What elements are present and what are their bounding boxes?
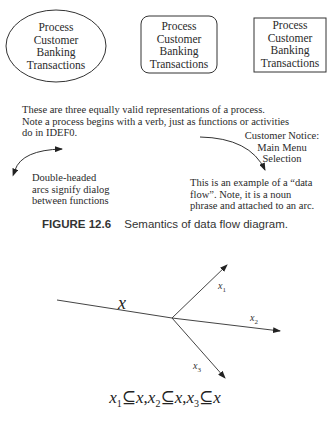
text-line: These are three equally valid representa… [22, 104, 322, 116]
set: x [213, 388, 221, 407]
text-line: flow”. Note, it is a noun [190, 189, 330, 201]
output-label-x1: x1 [218, 280, 226, 294]
label-line: Customer [254, 32, 326, 45]
text-line: Note a process begins with a verb, just … [22, 116, 322, 128]
input-flow-line [57, 300, 172, 318]
subscript: 2 [254, 318, 258, 326]
subset-operator: ⊆ [122, 388, 136, 407]
process-rounded-rect-label: Process Customer Banking Transactions [141, 20, 217, 70]
text-line: Main Menu [238, 142, 326, 154]
subscript: 1 [222, 286, 226, 294]
label-line: Banking [141, 45, 217, 58]
output-label-x3: x3 [193, 360, 201, 374]
figure-caption: FIGURE 12.6 Semantics of data flow diagr… [0, 218, 330, 230]
output-flow-x2 [172, 318, 280, 331]
var: x [109, 388, 117, 407]
text-line: arcs signify dialog [32, 184, 142, 196]
dialog-note: Double-headed arcs signify dialog betwee… [32, 172, 142, 207]
figure-caption-text: Semantics of data flow diagram. [124, 218, 288, 230]
output-label-x2: x2 [250, 312, 258, 326]
subset-operator: ⊆ [160, 388, 174, 407]
text-line: Double-headed [32, 172, 142, 184]
double-headed-arc [15, 149, 62, 170]
var: x [186, 388, 194, 407]
data-flow-label: Customer Notice: Main Menu Selection [238, 130, 326, 165]
subset-operator: ⊆ [199, 388, 213, 407]
label-line: Process [254, 19, 326, 32]
data-flow-note: This is an example of a “data flow”. Not… [190, 177, 330, 212]
set: x [136, 388, 144, 407]
label-line: Transactions [16, 59, 96, 72]
process-ellipse-label: Process Customer Banking Transactions [16, 21, 96, 71]
text-line: This is an example of a “data [190, 177, 330, 189]
label-line: Customer [141, 33, 217, 46]
label-line: Banking [254, 44, 326, 57]
figure-number: FIGURE 12.6 [42, 218, 111, 230]
input-flow-label: x [118, 293, 126, 314]
text-line: phrase and attached to an arc. [190, 200, 330, 212]
subscript: 3 [197, 366, 201, 374]
label-line: Transactions [254, 57, 326, 70]
label-line: Process [16, 21, 96, 34]
text-line: Customer Notice: [238, 130, 326, 142]
label-line: Process [141, 20, 217, 33]
label-line: Banking [16, 46, 96, 59]
label-line: Customer [16, 34, 96, 47]
process-rect-label: Process Customer Banking Transactions [254, 19, 326, 69]
subset-formula: x1⊆x,x2⊆x,x3⊆x [0, 387, 330, 409]
text-line: Selection [238, 153, 326, 165]
label-line: Transactions [141, 58, 217, 71]
text-line: between functions [32, 195, 142, 207]
